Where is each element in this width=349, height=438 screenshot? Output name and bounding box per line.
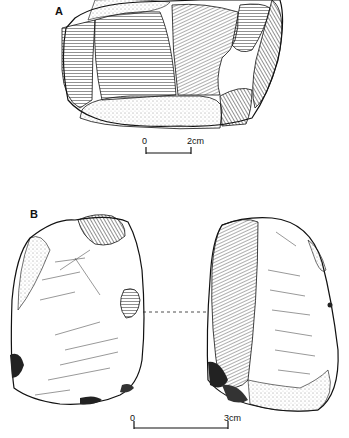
scale-b-start: 0: [130, 413, 135, 423]
scale-a-end: 2cm: [187, 136, 204, 146]
panel-a-label: A: [55, 5, 63, 17]
panel-b-label: B: [30, 208, 38, 220]
scale-b-end: 3cm: [224, 413, 241, 423]
artifact-b-side: [207, 218, 338, 412]
artifact-drawings: [0, 0, 349, 438]
scale-bar-a: [146, 147, 191, 154]
artifact-a-core: [62, 0, 283, 129]
scale-a-start: 0: [142, 136, 147, 146]
scale-bar-b: [134, 421, 228, 429]
artifact-b-dorsal: [10, 215, 144, 405]
